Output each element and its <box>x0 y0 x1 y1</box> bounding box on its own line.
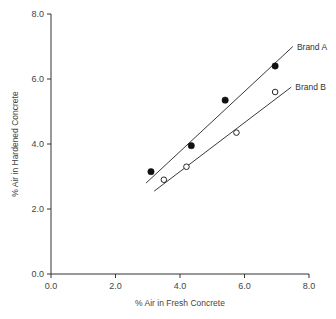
series-brand-a: Brand A <box>146 42 327 184</box>
filled-circle-marker <box>222 97 228 103</box>
x-tick-label: 2.0 <box>109 281 122 291</box>
y-tick-label: 8.0 <box>31 9 44 19</box>
axes <box>51 14 309 274</box>
y-tick-label: 0.0 <box>31 269 44 279</box>
open-circle-marker <box>161 177 167 183</box>
x-tick-label: 4.0 <box>174 281 187 291</box>
x-tick-label: 8.0 <box>303 281 316 291</box>
y-axis-ticks: 0.02.04.06.08.0 <box>31 9 51 279</box>
series-brand-b: Brand B <box>154 82 326 191</box>
y-tick-label: 4.0 <box>31 139 44 149</box>
fit-line <box>154 87 291 191</box>
filled-circle-marker <box>148 168 154 174</box>
x-axis-ticks: 0.02.04.06.08.0 <box>45 274 316 291</box>
series-label: Brand B <box>295 82 326 92</box>
x-tick-label: 0.0 <box>45 281 58 291</box>
filled-circle-marker <box>188 142 194 148</box>
y-tick-label: 2.0 <box>31 204 44 214</box>
x-axis-title: % Air in Fresh Concrete <box>135 298 225 308</box>
x-tick-label: 6.0 <box>238 281 251 291</box>
data-series: Brand ABrand B <box>146 42 327 192</box>
y-axis-title: % Air in Hardened Concrete <box>10 91 20 197</box>
fit-line <box>146 47 293 184</box>
series-label: Brand A <box>297 42 328 52</box>
open-circle-marker <box>184 164 190 170</box>
y-tick-label: 6.0 <box>31 74 44 84</box>
filled-circle-marker <box>272 63 278 69</box>
open-circle-marker <box>234 130 240 136</box>
open-circle-marker <box>272 89 278 95</box>
scatter-chart: 0.02.04.06.08.0 0.02.04.06.08.0 % Air in… <box>0 0 336 319</box>
